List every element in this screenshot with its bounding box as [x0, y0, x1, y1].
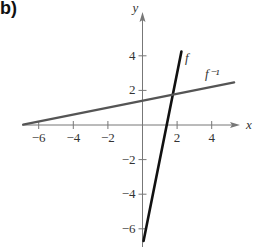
x-tick-label: 2: [174, 130, 181, 145]
y-tick-label: 2: [129, 82, 136, 97]
x-tick-label: −6: [32, 130, 46, 145]
f-inverse-label: f⁻¹: [205, 66, 220, 81]
x-tick-label: −4: [66, 130, 80, 145]
series-line-f: [144, 51, 182, 240]
f-label: f: [185, 50, 191, 65]
x-axis-label: x: [245, 117, 252, 132]
y-tick-label: −4: [122, 186, 136, 201]
y-tick-label: 4: [129, 48, 136, 63]
chart: xy−6−4−224−6−4−224ff⁻¹: [0, 0, 257, 247]
y-axis-label: y: [131, 0, 139, 15]
x-tick-label: −2: [101, 130, 115, 145]
y-tick-label: −6: [122, 221, 136, 236]
y-tick-label: −2: [122, 152, 136, 167]
x-tick-label: 4: [208, 130, 215, 145]
